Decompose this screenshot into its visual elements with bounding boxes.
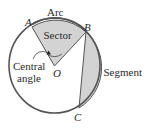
segment-region <box>79 32 102 108</box>
point-c-label: C <box>74 111 82 123</box>
arc-label: Arc <box>47 6 64 18</box>
sector-label: Sector <box>44 29 72 41</box>
central-angle-label-line1: Central <box>13 60 45 72</box>
point-b-label: B <box>84 21 91 33</box>
point-a-label: A <box>24 16 32 28</box>
central-angle-label-line2: angle <box>17 72 41 84</box>
segment-label: Segment <box>104 66 143 78</box>
point-o-label: O <box>53 67 61 79</box>
circle-diagram: Arc Sector Segment Central angle A B C O <box>0 0 147 131</box>
